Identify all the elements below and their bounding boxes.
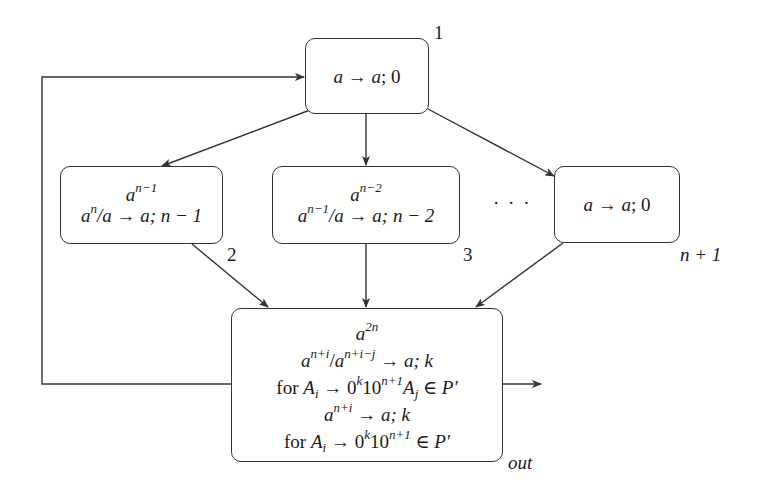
neuron-out-label: out [508,452,532,474]
sym: n−1 [307,201,329,216]
neuron-out-rule-1: an+i/an+i−j → a; k [301,350,433,371]
sym: A [311,431,323,452]
neuron-out-spikes: a2n [356,323,379,344]
sym: → [344,205,373,226]
sym: a [333,66,343,87]
sym: → [375,350,404,371]
sym: a [298,205,308,226]
sym: a [126,184,136,205]
sym: n+i [334,400,353,415]
sym: /a [329,205,344,226]
neuron-out-condition-2: for Ai → 0k10n+1 ∈ P′ [284,431,450,452]
sym: n+1 [389,427,411,442]
neuron-out-rule-2: an+i → a; k [324,404,410,425]
neuron-2-label: 2 [227,244,237,266]
sym: a [81,205,91,226]
neuron-2: an−1 an/a → a; n − 1 [60,166,223,244]
sym: a [140,205,150,226]
edge-1-to-2 [162,110,310,166]
ellipsis: · · · [493,192,531,214]
sym: a [335,350,345,371]
neuron-3-rule: an−1/a → a; n − 2 [298,205,434,226]
neuron-1-rule: a → a; 0 [333,66,400,87]
sym: → [352,404,381,425]
sym: ; n − 2 [382,205,434,226]
neuron-out: a2n an+i/an+i−j → a; k for Ai → 0k10n+1A… [231,308,503,462]
sym: ∈ P′ [411,431,450,452]
sym: ; 0 [381,66,401,87]
sym: ; 0 [631,194,651,215]
sym: a [350,184,360,205]
neuron-n-plus-1: a → a; 0 [554,166,680,243]
sym: a [301,350,311,371]
neuron-out-condition-1: for Ai → 0k10n+1Aj ∈ P′ [276,377,457,398]
sym: n−2 [360,180,382,195]
sym: a [621,194,631,215]
sym: ∈ P′ [418,377,457,398]
sym: 10 [362,377,381,398]
sym: A [403,377,415,398]
neuron-2-rule: an/a → a; n − 1 [81,205,202,226]
sym: 10 [370,431,389,452]
sym: a [583,194,593,215]
sym: a [324,404,334,425]
sym: 0 [347,377,357,398]
neuron-3: an−2 an−1/a → a; n − 2 [272,166,460,244]
sym: n+1 [381,373,403,388]
sym: n−1 [135,180,157,195]
neuron-2-spikes: an−1 [126,184,157,205]
sym: a [356,323,366,344]
sym: n+i [311,346,330,361]
sym: ; k [390,404,410,425]
sym: → [343,66,372,87]
sym: for [276,377,303,398]
edge-n1-to-out [476,243,563,307]
neuron-1-label: 1 [434,22,444,44]
sym: a [372,205,382,226]
sym: a [381,404,391,425]
sym: → [593,194,622,215]
neuron-n-plus-1-rule: a → a; 0 [583,194,650,215]
neuron-n-plus-1-label: n + 1 [680,244,721,266]
sym: 0 [355,431,365,452]
sym: A [303,377,315,398]
sym: → [326,431,355,452]
neuron-1: a → a; 0 [305,38,429,114]
sym: /a [97,205,112,226]
neuron-3-label: 3 [463,244,473,266]
sym: for [284,431,311,452]
sym: n+i−j [344,346,375,361]
sym: ; n − 1 [150,205,202,226]
sym: 2n [365,319,378,334]
sym: a [371,66,381,87]
sym: ; k [413,350,433,371]
sym: → [319,377,348,398]
neuron-3-spikes: an−2 [350,184,381,205]
sym: → [112,205,141,226]
